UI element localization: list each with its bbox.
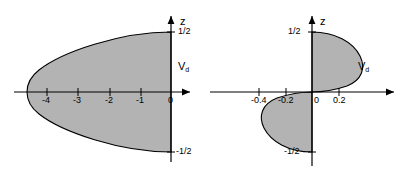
left-xtick-label--1: -1 [136, 96, 144, 105]
right-y-axis-label: z [320, 17, 326, 26]
left-plot-svg [0, 0, 202, 174]
left-xtick-label--4: -4 [42, 96, 50, 105]
left-xtick-label-0: 0 [168, 96, 173, 105]
right-xtick-label--0.4: -0.4 [251, 96, 267, 105]
right-shaded-region-upper [312, 32, 363, 92]
left-x-axis-arrow [182, 89, 190, 96]
left-y-axis-label: z [180, 17, 186, 26]
left-ytick-label-half: 1/2 [178, 27, 191, 36]
left-xtick-label--2: -2 [105, 96, 113, 105]
right-x-axis-label: Vd [358, 62, 369, 74]
left-x-axis-label: Vd [178, 62, 189, 74]
left-y-axis-arrow [168, 16, 175, 24]
right-ytick-label-half: 1/2 [288, 27, 301, 36]
left-panel: Vd z -4 -3 -2 -1 0 1/2 -1/2 [0, 0, 202, 174]
right-y-axis-arrow [309, 16, 316, 24]
right-xtick-label-0.2: 0.2 [333, 96, 346, 105]
right-x-axis-arrow [386, 89, 394, 96]
right-xtick-label--0.2: -0.2 [278, 96, 294, 105]
right-panel: Vd z -0.4 -0.2 0 0.2 1/2 -1/2 [202, 0, 404, 174]
right-ytick-label-neg-half: -1/2 [284, 147, 300, 156]
right-plot-svg [202, 0, 404, 174]
figure-container: Vd z -4 -3 -2 -1 0 1/2 -1/2 [0, 0, 404, 174]
left-xtick-label--3: -3 [73, 96, 81, 105]
right-xtick-label-0: 0 [314, 96, 319, 105]
left-ytick-label-neg-half: -1/2 [176, 147, 192, 156]
